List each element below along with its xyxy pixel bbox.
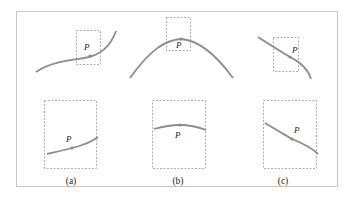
caption-c: (c) xyxy=(278,176,289,187)
point-p-a xyxy=(88,54,91,57)
caption-b: (b) xyxy=(172,176,183,187)
point-label-a: P xyxy=(83,42,90,52)
zoomed-point-label-b: P xyxy=(174,130,181,140)
zoomed-point-p-b xyxy=(178,123,181,126)
zoomed-point-label-a: P xyxy=(65,134,72,144)
zoomed-point-p-c xyxy=(290,137,293,140)
point-label-c: P xyxy=(291,45,298,55)
point-p-c xyxy=(288,55,291,58)
point-label-b: P xyxy=(175,40,182,50)
zoomed-point-label-c: P xyxy=(293,125,300,135)
zoomed-point-p-a xyxy=(70,146,73,149)
caption-a: (a) xyxy=(66,176,77,187)
figure-diagram: P P (a) P P (b) P P (c) xyxy=(0,0,349,207)
